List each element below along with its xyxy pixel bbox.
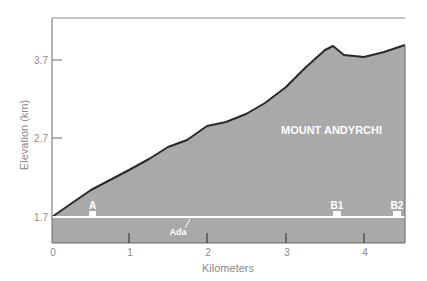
x-tick-label: 0 [50, 247, 56, 258]
x-tick-label: 3 [284, 247, 290, 258]
marker-a-label: A [89, 200, 96, 211]
marker-a-box [89, 211, 96, 217]
x-tick-label: 1 [127, 247, 133, 258]
elevation-profile-chart: 3.7 2.7 1.7 0 1 2 3 4 Kilometers Elevati… [0, 0, 427, 281]
y-tick-label: 1.7 [34, 212, 48, 223]
x-tick-label: 4 [362, 247, 368, 258]
mountain-label: MOUNT ANDYRCHI [281, 124, 382, 136]
y-tick-label: 2.7 [34, 133, 48, 144]
y-axis-label: Elevation (km) [18, 100, 30, 170]
marker-b2-box [393, 211, 401, 217]
tunnel-label: Ada [169, 227, 187, 237]
y-tick-label: 3.7 [34, 55, 48, 66]
marker-b1-box [333, 211, 341, 217]
x-axis-label: Kilometers [202, 262, 254, 274]
mountain-area [52, 45, 405, 243]
marker-b1-label: B1 [331, 200, 344, 211]
marker-b2-label: B2 [391, 200, 404, 211]
x-tick-label: 2 [205, 247, 211, 258]
